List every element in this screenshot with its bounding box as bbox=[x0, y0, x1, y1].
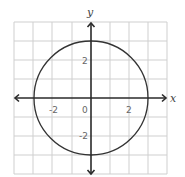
y-tick-label-pos2: 2 bbox=[82, 56, 88, 66]
x-axis-label: x bbox=[170, 92, 177, 105]
x-tick-label-neg2: -2 bbox=[49, 105, 58, 115]
x-tick-label-pos2: 2 bbox=[126, 105, 132, 115]
coordinate-plane: y x -2 0 2 2 -2 bbox=[0, 0, 185, 177]
y-axis-label: y bbox=[86, 6, 94, 19]
y-tick-label-neg2: -2 bbox=[79, 131, 88, 141]
origin-label: 0 bbox=[82, 105, 88, 115]
